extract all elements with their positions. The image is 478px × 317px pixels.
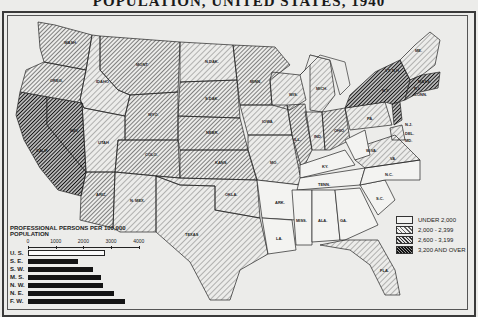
legend-swatch-dense (396, 246, 413, 254)
svg-text:N. MEX.: N. MEX. (130, 198, 145, 203)
svg-text:NEV.: NEV. (70, 128, 79, 133)
svg-text:N.Y.: N.Y. (382, 88, 389, 93)
legend-swatch-medium (396, 236, 413, 244)
bar-row: S. E. (10, 257, 150, 265)
svg-text:N.C.: N.C. (385, 172, 393, 177)
bar-label: N. E. (10, 290, 28, 296)
bar-label: N. W. (10, 282, 28, 288)
svg-text:MISS.: MISS. (296, 218, 307, 223)
svg-text:TEXAS: TEXAS (185, 232, 199, 237)
bar-label: M. S. (10, 274, 28, 280)
bar-rows: U. S.S. E.S. W.M. S.N. W.N. E.F. W. (10, 249, 150, 305)
state-ny (345, 60, 410, 108)
svg-text:VT. N.H.: VT. N.H. (385, 68, 400, 73)
bar (28, 267, 93, 272)
svg-text:W.VA.: W.VA. (366, 148, 377, 153)
svg-text:IND.: IND. (314, 134, 322, 139)
svg-text:IDAHO: IDAHO (96, 79, 109, 84)
svg-text:PA.: PA. (367, 116, 373, 121)
legend-label: 2,000 - 2,399 (418, 227, 453, 233)
svg-text:ALA.: ALA. (318, 218, 327, 223)
svg-text:MASS.: MASS. (418, 79, 431, 84)
svg-text:ARIZ.: ARIZ. (96, 192, 106, 197)
legend-item-2000-2399: 2,000 - 2,399 (396, 225, 476, 235)
state-colo (115, 140, 180, 178)
svg-text:LA.: LA. (276, 236, 282, 241)
bar (28, 299, 125, 304)
legend-label: 3,200 AND OVER (418, 247, 466, 253)
bar (28, 250, 105, 256)
svg-text:IOWA: IOWA (262, 119, 273, 124)
legend-swatch-none (396, 216, 413, 224)
svg-text:CALIF.: CALIF. (36, 148, 48, 153)
bar-row: F. W. (10, 297, 150, 305)
axis-tick: 4000 (133, 238, 144, 244)
svg-text:COLO.: COLO. (145, 152, 158, 157)
svg-text:N.J.: N.J. (405, 122, 412, 127)
svg-text:CONN.: CONN. (414, 92, 427, 97)
bar-row: U. S. (10, 249, 150, 257)
state-nj (392, 102, 402, 125)
svg-text:OREG.: OREG. (50, 78, 63, 83)
state-md (390, 125, 405, 140)
state-kans (180, 150, 257, 180)
svg-text:R.I.: R.I. (414, 86, 420, 91)
legend-item-under-2000: UNDER 2,000 (396, 215, 476, 225)
bar-row: N. E. (10, 289, 150, 297)
svg-text:OHIO: OHIO (334, 128, 344, 133)
state-ariz (80, 172, 115, 228)
svg-text:S.C.: S.C. (376, 196, 384, 201)
svg-text:N.DAK.: N.DAK. (205, 59, 219, 64)
svg-text:WIS.: WIS. (289, 92, 298, 97)
bar-label: S. E. (10, 258, 28, 264)
bar-row: M. S. (10, 273, 150, 281)
svg-text:UTAH: UTAH (98, 140, 109, 145)
svg-text:MD.: MD. (405, 138, 412, 143)
svg-text:ILL.: ILL. (294, 137, 301, 142)
bar (28, 275, 101, 280)
bar (28, 291, 114, 296)
svg-text:S.DAK.: S.DAK. (205, 96, 219, 101)
svg-text:GA.: GA. (340, 218, 347, 223)
svg-text:MONT.: MONT. (136, 62, 148, 67)
svg-text:NEBR.: NEBR. (206, 130, 218, 135)
svg-text:OKLA.: OKLA. (225, 192, 237, 197)
svg-text:FLA.: FLA. (380, 268, 389, 273)
axis-tick: 2000 (78, 238, 89, 244)
professional-persons-bar-chart: PROFESSIONAL PERSONS PER 100,000 POPULAT… (10, 225, 150, 305)
axis-tick: 0 (27, 238, 30, 244)
svg-text:MINN.: MINN. (250, 79, 261, 84)
svg-text:WYO.: WYO. (148, 112, 159, 117)
legend-item-3200-over: 3,200 AND OVER (396, 245, 476, 255)
bar-label: S. W. (10, 266, 28, 272)
svg-text:ARK.: ARK. (275, 200, 285, 205)
bar-row: S. W. (10, 265, 150, 273)
svg-text:DEL.: DEL. (405, 131, 414, 136)
svg-text:MICH.: MICH. (316, 86, 327, 91)
bar-label: F. W. (10, 298, 28, 304)
legend-label: 2,600 - 3,199 (418, 237, 453, 243)
bar (28, 283, 103, 288)
svg-text:KY.: KY. (322, 164, 328, 169)
svg-text:VA.: VA. (390, 156, 396, 161)
legend-label: UNDER 2,000 (418, 217, 456, 223)
axis-tick: 3000 (106, 238, 117, 244)
svg-text:KANS.: KANS. (215, 160, 227, 165)
svg-text:ME.: ME. (415, 48, 422, 53)
svg-text:TENN.: TENN. (318, 182, 330, 187)
svg-text:WASH.: WASH. (64, 40, 77, 45)
bar-label: U. S. (10, 250, 28, 256)
bar (28, 259, 78, 264)
legend-item-2600-3199: 2,600 - 3,199 (396, 235, 476, 245)
axis-tick: 1000 (50, 238, 61, 244)
bar-chart-axis: 0 1000 2000 3000 4000 (28, 237, 150, 249)
svg-text:MO.: MO. (270, 160, 278, 165)
bar-row: N. W. (10, 281, 150, 289)
legend-swatch-light (396, 226, 413, 234)
map-legend: UNDER 2,000 2,000 - 2,399 2,600 - 3,199 … (396, 215, 476, 255)
bar-chart-title: PROFESSIONAL PERSONS PER 100,000 POPULAT… (10, 225, 150, 237)
